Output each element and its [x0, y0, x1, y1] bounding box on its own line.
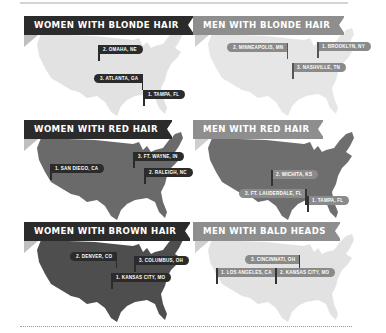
panel-title: MEN WITH RED HAIR	[193, 120, 323, 139]
pin-pole	[143, 90, 145, 106]
pin-label: 3. ATLANTA, GA	[100, 76, 138, 81]
panel-men-blonde-hair: MEN WITH BLONDE HAIR 2. MINNEAPOLIS, MN …	[193, 16, 363, 116]
map-pin: 1. KANSAS CITY, MO	[111, 273, 171, 282]
pin-label: 3. CINCINNATI, OH	[251, 257, 295, 262]
panel-women-brown-hair: WOMEN WITH BROWN HAIR 2. DENVER, CO 3. C…	[22, 222, 192, 322]
pin-pole	[216, 268, 218, 284]
pin-pole	[287, 43, 289, 59]
pin-label: 1. TAMPA, FL	[312, 198, 343, 203]
bottom-divider	[20, 326, 352, 327]
pin-pole	[142, 74, 144, 90]
map-pin: 3. FT. WAYNE, IN	[133, 152, 184, 161]
map-pin: 1. LOS ANGELES, CA	[216, 268, 278, 277]
pin-pole	[116, 252, 118, 268]
map-pin: 3. ATLANTA, GA	[94, 74, 143, 83]
banner-fold	[195, 35, 209, 47]
map-pin: 3. FT. LAUDERDALE, FL	[239, 189, 307, 198]
panel-women-red-hair: WOMEN WITH RED HAIR 1. SAN DIEGO, CA 3. …	[22, 120, 192, 220]
pin-pole	[292, 63, 294, 79]
pin-label: 1. TAMPA, FL	[148, 92, 179, 97]
pin-pole	[133, 152, 135, 168]
map-pin: 3. COLUMBUS, OH	[134, 256, 189, 265]
panel-title: MEN WITH BALD HEADS	[193, 222, 340, 241]
pin-pole	[307, 196, 309, 212]
us-map-icon	[201, 232, 361, 324]
pin-label: 3. FT. LAUDERDALE, FL	[245, 191, 302, 196]
pin-label: 2. MINNEAPOLIS, MN	[233, 45, 283, 50]
panel-men-red-hair: MEN WITH RED HAIR 2. WICHITA, KS 3. FT. …	[193, 120, 363, 220]
panel-title: MEN WITH BLONDE HAIR	[193, 16, 344, 35]
banner-fold	[24, 241, 38, 253]
pin-label: 2. RALEIGH, NC	[149, 170, 187, 175]
map-pin: 2. KANSAS CITY, MO	[275, 268, 335, 277]
pin-pole	[271, 170, 273, 186]
panel-men-bald-heads: MEN WITH BALD HEADS 3. CINCINNATI, OH 1.…	[193, 222, 363, 322]
pin-pole	[98, 45, 100, 61]
pin-pole	[317, 42, 319, 58]
pin-label: 1. LOS ANGELES, CA	[221, 270, 272, 275]
pin-pole	[50, 164, 52, 180]
map-pin: 2. DENVER, CO	[70, 252, 117, 261]
pin-label: 3. NASHVILLE, TN	[297, 65, 340, 70]
panel-title: WOMEN WITH BROWN HAIR	[24, 222, 190, 241]
map-pin: 2. RALEIGH, NC	[144, 168, 193, 177]
pin-label: 2. OMAHA, NE	[103, 47, 137, 52]
banner-fold	[24, 139, 38, 151]
pin-pole	[275, 268, 277, 284]
top-divider	[20, 2, 348, 4]
pin-label: 2. DENVER, CO	[76, 254, 112, 259]
panel-women-blonde-hair: WOMEN WITH BLONDE HAIR 2. OMAHA, NE 3. A…	[22, 16, 192, 116]
banner-fold	[195, 241, 209, 253]
pin-label: 2. KANSAS CITY, MO	[280, 270, 329, 275]
pin-label: 3. FT. WAYNE, IN	[138, 154, 178, 159]
pin-pole	[144, 168, 146, 184]
map-pin: 2. WICHITA, KS	[271, 170, 318, 179]
pin-label: 1. KANSAS CITY, MO	[116, 275, 165, 280]
map-pin: 2. MINNEAPOLIS, MN	[227, 43, 288, 52]
map-pin: 1. TAMPA, FL	[143, 90, 185, 99]
map-pin: 1. BROOKLYN, NY	[317, 42, 371, 51]
pin-pole	[111, 273, 113, 289]
map-pin: 3. NASHVILLE, TN	[292, 63, 346, 72]
map-pin: 1. SAN DIEGO, CA	[50, 164, 104, 173]
us-map-icon	[30, 26, 190, 118]
banner-fold	[24, 35, 38, 47]
pin-label: 1. BROOKLYN, NY	[322, 44, 365, 49]
map-pin: 2. OMAHA, NE	[98, 45, 143, 54]
us-map-icon	[201, 26, 361, 118]
panel-title: WOMEN WITH RED HAIR	[24, 120, 172, 139]
pin-pole	[134, 256, 136, 272]
map-pin: 3. CINCINNATI, OH	[245, 255, 300, 264]
pin-label: 2. WICHITA, KS	[276, 172, 312, 177]
panel-title: WOMEN WITH BLONDE HAIR	[24, 16, 193, 35]
map-pin: 1. TAMPA, FL	[307, 196, 349, 205]
banner-fold	[195, 139, 209, 151]
pin-label: 3. COLUMBUS, OH	[139, 258, 183, 263]
pin-label: 1. SAN DIEGO, CA	[55, 166, 98, 171]
